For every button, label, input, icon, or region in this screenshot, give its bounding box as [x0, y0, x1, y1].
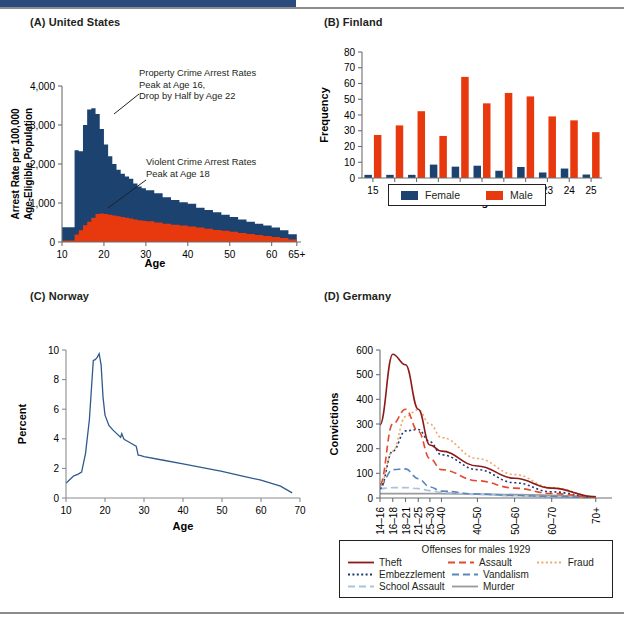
legend-item-vandalism: Vandalism — [452, 569, 544, 580]
violent-crime-annotation: Violent Crime Arrest Rates Peak at Age 1… — [146, 156, 256, 179]
property-crime-annotation: Property Crime Arrest Rates Peak at Age … — [139, 67, 256, 102]
svg-text:200: 200 — [356, 443, 373, 454]
svg-text:10: 10 — [56, 249, 68, 260]
svg-text:0: 0 — [49, 237, 55, 248]
legend-label-female: Female — [425, 189, 460, 201]
header-accent-bar — [0, 0, 296, 7]
svg-text:50: 50 — [344, 94, 356, 105]
theft-line-icon — [348, 558, 374, 567]
legend-label-vandalism: Vandalism — [483, 569, 529, 580]
svg-text:70: 70 — [294, 505, 306, 516]
svg-text:20: 20 — [344, 141, 356, 152]
svg-text:65+: 65+ — [288, 249, 305, 260]
panel-b-title: (B) Finland — [324, 16, 383, 28]
svg-text:60: 60 — [266, 249, 278, 260]
panel-a-ylabel-line1: Arrest Rate per 100,000 — [10, 108, 21, 220]
legend-item-female: Female — [401, 189, 460, 201]
legend-label-assault: Assault — [479, 557, 512, 568]
panel-d-legend: Offenses for males 1929 Theft Assault Fr… — [339, 540, 613, 598]
svg-text:80: 80 — [344, 47, 356, 58]
female-swatch-icon — [401, 191, 418, 200]
panel-finland: (B) Finland 01020304050607080 1516171819… — [312, 16, 624, 286]
svg-text:0: 0 — [367, 493, 373, 504]
legend-item-murder: Murder — [452, 581, 544, 592]
legend-item-theft: Theft — [348, 557, 448, 568]
male-swatch-icon — [486, 191, 503, 200]
embezzlement-line-icon — [348, 570, 374, 579]
svg-text:10: 10 — [60, 505, 72, 516]
svg-text:14–16: 14–16 — [375, 507, 386, 535]
legend-row-1: Theft Assault Fraud — [348, 557, 604, 568]
svg-text:25: 25 — [586, 185, 598, 196]
legend-label-embezzlement: Embezzlement — [379, 569, 445, 580]
panel-c-title: (C) Norway — [30, 290, 89, 302]
panel-a-chart: 01,0002,0003,0004,000 10203040506065+ Ag… — [0, 30, 312, 270]
svg-text:2: 2 — [53, 463, 59, 474]
svg-text:4,000: 4,000 — [30, 81, 55, 92]
svg-text:24: 24 — [564, 185, 576, 196]
svg-text:100: 100 — [356, 468, 373, 479]
panel-a-ylabel-line2: Age-Eligible Population — [23, 108, 34, 220]
top-divider — [0, 7, 624, 9]
svg-text:21–25: 21–25 — [413, 507, 424, 535]
svg-text:30: 30 — [344, 125, 356, 136]
svg-text:18–21: 18–21 — [401, 507, 412, 535]
svg-text:40: 40 — [182, 249, 194, 260]
svg-text:60: 60 — [255, 505, 267, 516]
svg-text:70: 70 — [344, 62, 356, 73]
vandalism-line-icon — [452, 570, 478, 579]
legend-item-assault: Assault — [448, 557, 537, 568]
svg-text:40: 40 — [344, 110, 356, 121]
svg-text:4: 4 — [53, 433, 59, 444]
svg-text:6: 6 — [53, 404, 59, 415]
legend-label-male: Male — [510, 189, 533, 201]
panel-d-title: (D) Germany — [324, 290, 391, 302]
panel-norway: (C) Norway 0246810 10203040506070 Age Pe… — [0, 290, 312, 540]
svg-text:60: 60 — [344, 78, 356, 89]
legend-label-school-assault: School Assault — [379, 581, 445, 592]
fraud-line-icon — [537, 558, 563, 567]
svg-text:16–18: 16–18 — [388, 507, 399, 535]
svg-text:10: 10 — [48, 345, 60, 356]
school-assault-line-icon — [348, 582, 374, 591]
svg-text:70+: 70+ — [591, 507, 602, 524]
legend-label-fraud: Fraud — [568, 557, 594, 568]
legend-row-3: School Assault Murder — [348, 581, 604, 592]
svg-text:20: 20 — [98, 249, 110, 260]
svg-text:60–70: 60–70 — [547, 507, 558, 535]
panel-c-ylabel: Percent — [16, 403, 28, 444]
legend-label-theft: Theft — [379, 557, 402, 568]
panel-d-ylabel: Convictions — [328, 393, 340, 456]
svg-text:50–60: 50–60 — [510, 507, 521, 535]
svg-text:50: 50 — [216, 505, 228, 516]
panel-germany: (D) Germany 0100200300400500600 14–1616–… — [312, 290, 624, 620]
legend-title: Offenses for males 1929 — [340, 544, 612, 555]
assault-line-icon — [448, 558, 474, 567]
svg-text:600: 600 — [356, 345, 373, 356]
svg-text:40–50: 40–50 — [472, 507, 483, 535]
svg-text:20: 20 — [99, 505, 111, 516]
svg-text:50: 50 — [224, 249, 236, 260]
panel-a-xlabel: Age — [145, 257, 166, 269]
svg-text:0: 0 — [349, 173, 355, 184]
panel-d-chart: 0100200300400500600 14–1616–1818–2121–25… — [312, 308, 624, 543]
legend-item-fraud: Fraud — [537, 557, 604, 568]
svg-text:30–40: 30–40 — [436, 507, 447, 535]
svg-text:15: 15 — [367, 185, 379, 196]
svg-text:30: 30 — [138, 505, 150, 516]
legend-item-school-assault: School Assault — [348, 581, 452, 592]
svg-text:25–30: 25–30 — [425, 507, 436, 535]
panel-c-xlabel: Age — [173, 520, 194, 532]
svg-text:0: 0 — [53, 493, 59, 504]
panel-b-ylabel: Frequency — [318, 86, 330, 143]
svg-text:300: 300 — [356, 419, 373, 430]
panel-a-title: (A) United States — [30, 16, 120, 28]
legend-item-male: Male — [486, 189, 533, 201]
panel-c-chart: 0246810 10203040506070 Age Percent — [0, 308, 312, 538]
svg-text:8: 8 — [53, 374, 59, 385]
svg-text:400: 400 — [356, 394, 373, 405]
svg-text:10: 10 — [344, 157, 356, 168]
svg-text:40: 40 — [177, 505, 189, 516]
panel-b-chart: 01020304050607080 1516171819202122232425… — [312, 38, 624, 208]
panel-united-states: (A) United States 01,0002,0003,0004,000 … — [0, 16, 312, 272]
